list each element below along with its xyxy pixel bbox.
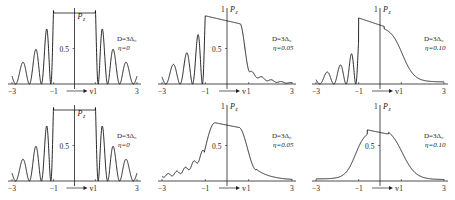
x-tick-label: −1 [201,184,209,193]
y-axis-label-sub: z [235,106,239,112]
x-tick-label: 1 [247,184,251,193]
x-tick-label: 1 [247,87,251,96]
y-tick-label-top: 1 [221,5,225,14]
x-tick-label: 3 [135,184,139,193]
param-eta-label: η=0.05 [273,141,294,149]
arrow-icon [389,186,393,190]
x-tick-label: 3 [442,184,446,193]
y-tick-label: 0.5 [60,142,70,151]
x-tick-label: −1 [50,184,58,193]
y-axis-label: P [382,5,388,14]
y-axis-label-sub: z [388,106,392,112]
param-D-label: D=3Δ₀ [424,35,444,43]
param-eta-label: η=0.10 [425,141,446,149]
x-tick-label: 3 [290,184,294,193]
y-tick-label-top: 1 [374,5,378,14]
param-eta-label: η=0.05 [273,44,294,52]
x-axis-label: v [242,87,246,96]
x-tick-label: 3 [290,87,294,96]
x-tick-label: 3 [135,87,139,96]
x-tick-label: 1 [93,87,97,96]
y-tick-label-top: 1 [221,102,225,111]
arrow-icon [84,186,88,190]
y-axis-label: P [382,102,388,111]
panel-r2c3: v−3−1130.51PzD=3Δ₀η=0.10 [312,102,448,193]
arrow-icon [84,89,88,93]
y-tick-label: 0.5 [212,142,222,151]
y-tick-label: 0.5 [60,45,70,54]
y-tick-label-top: 1 [374,102,378,111]
x-tick-label: −1 [201,87,209,96]
x-tick-label: 1 [399,87,403,96]
panel-r1c2: v−3−1130.51PzD=3Δ₀η=0.05 [158,5,296,96]
y-axis-label-sub: z [235,9,239,15]
panel-r1c3: v−3−1131PzD=3Δ₀η=0.10 [312,5,448,96]
param-eta-label: η=0 [118,141,130,149]
param-eta-label: η=0 [118,44,130,52]
panel-r2c2: v−3−1130.51PzD=3Δ₀η=0.05 [158,102,296,193]
x-tick-label: 1 [93,184,97,193]
param-D-label: D=3Δ₀ [272,35,292,43]
x-tick-label: −1 [355,87,363,96]
y-tick-label: 0.5 [365,142,375,151]
panel-r1c1: v−3−1130.5PzD=3Δ₀η=0 [8,8,141,96]
y-tick-label: 0.5 [212,45,222,54]
x-tick-label: −3 [312,184,320,193]
param-eta-label: η=0.10 [425,44,446,52]
param-D-label: D=3Δ₀ [117,35,137,43]
param-D-label: D=3Δ₀ [424,132,444,140]
x-tick-label: −3 [158,184,166,193]
panel-r2c1: v−3−1130.5PzD=3Δ₀η=0 [8,105,141,193]
arrow-icon [236,89,240,93]
x-tick-label: −1 [50,87,58,96]
y-axis-label-sub: z [82,113,86,119]
param-D-label: D=3Δ₀ [117,132,137,140]
y-axis-label-sub: z [82,16,86,22]
x-tick-label: −3 [8,184,16,193]
y-axis-label: P [229,5,235,14]
y-axis-label: P [229,102,235,111]
x-tick-label: 3 [442,87,446,96]
x-tick-label: −3 [312,87,320,96]
x-tick-label: 1 [399,184,403,193]
arrow-icon [236,186,240,190]
x-tick-label: −3 [158,87,166,96]
x-tick-label: −1 [355,184,363,193]
x-tick-label: −3 [8,87,16,96]
arrow-icon [389,89,393,93]
figure-grid: v−3−1130.5PzD=3Δ₀η=0v−3−1130.51PzD=3Δ₀η=… [0,0,455,200]
y-axis-label-sub: z [388,9,392,15]
x-axis-label: v [242,184,246,193]
param-D-label: D=3Δ₀ [272,132,292,140]
